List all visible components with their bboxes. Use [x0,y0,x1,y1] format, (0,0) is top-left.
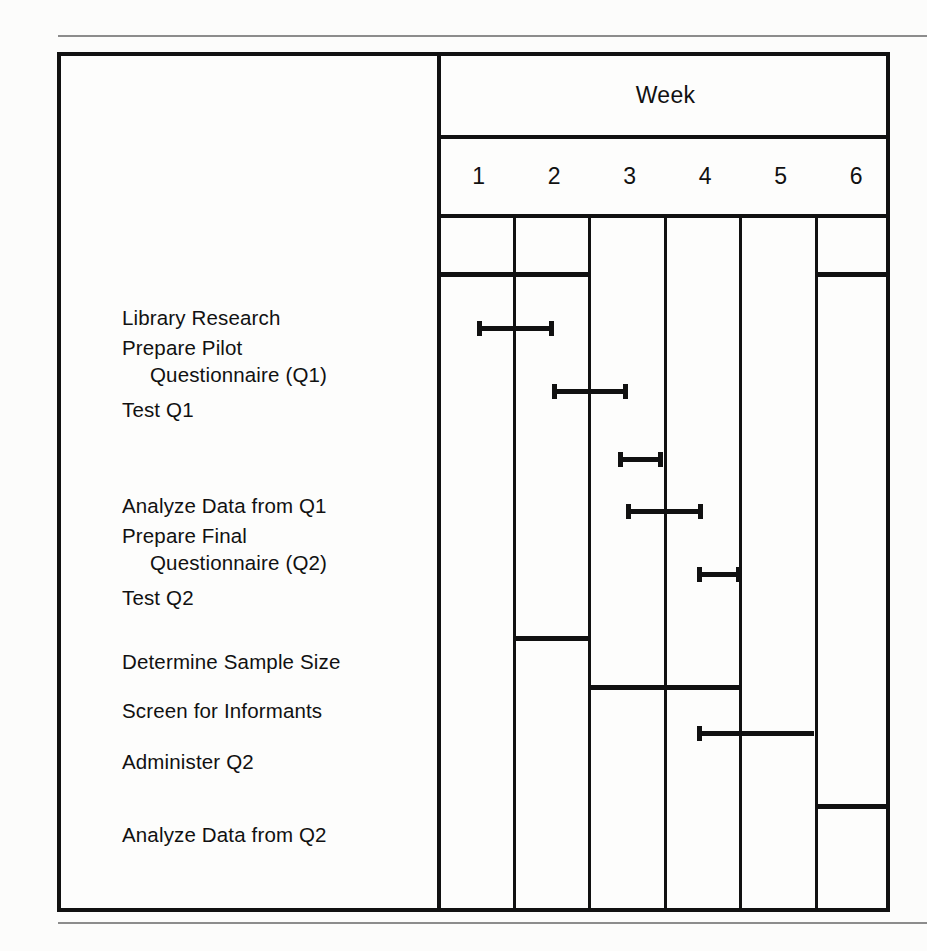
task-label: Prepare FinalQuestionnaire (Q2) [122,522,327,576]
week-number-cell-1: 1 [441,139,517,214]
task-label-line1: Prepare Final [122,524,247,547]
task-label: Library Research [122,304,281,331]
task-label-line1: Analyze Data from Q1 [122,494,327,517]
week-header-title: Week [441,56,890,135]
bar-cap-right [736,567,741,582]
gantt-bar [697,572,740,577]
week-number-row: 123456 [441,139,890,214]
bottom-horizontal-rule [58,922,927,924]
bar-cap-left [697,567,702,582]
week-gridline-3 [664,214,667,912]
week-number-cell-6: 6 [819,139,895,214]
task-label: Determine Sample Size [122,648,341,675]
task-label: Screen for Informants [122,697,322,724]
task-label-line2: Questionnaire (Q2) [122,549,327,576]
task-label-line1: Test Q1 [122,398,194,421]
bar-cap-left [618,452,623,467]
gantt-bar [626,509,703,514]
week-gridline-4 [739,214,742,912]
task-label: Analyze Data from Q2 [122,821,327,848]
gantt-chart-frame: Week 123456 Library ResearchPrepare Pilo… [57,52,890,912]
task-label-line1: Screen for Informants [122,699,322,722]
week-gridline-2 [588,214,591,912]
gantt-bar [697,731,814,736]
top-horizontal-rule [58,35,927,37]
week-number-cell-5: 5 [743,139,819,214]
gantt-bar [552,389,628,394]
task-label-line1: Administer Q2 [122,750,254,773]
task-label-column: Library ResearchPrepare PilotQuestionnai… [122,56,432,908]
task-label: Prepare PilotQuestionnaire (Q1) [122,334,327,388]
task-label-line1: Analyze Data from Q2 [122,823,327,846]
gantt-bar [437,272,588,277]
week-number-cell-3: 3 [592,139,668,214]
bar-cap-right [549,321,554,336]
gantt-bar [815,272,891,277]
task-label: Test Q1 [122,396,194,423]
bar-cap-right [698,504,703,519]
task-label-line1: Prepare Pilot [122,336,242,359]
task-label: Analyze Data from Q1 [122,492,327,519]
gantt-bar [477,326,554,331]
week-gridline-1 [513,214,516,912]
task-label-line2: Questionnaire (Q1) [122,361,327,388]
week-number-cell-2: 2 [517,139,593,214]
bar-cap-right [658,452,663,467]
gantt-bar [513,636,589,641]
bar-cap-left [477,321,482,336]
task-label-line1: Determine Sample Size [122,650,341,673]
gantt-bar [618,457,663,462]
bar-cap-left [626,504,631,519]
bar-cap-left [552,384,557,399]
task-label: Test Q2 [122,584,194,611]
task-label-line1: Test Q2 [122,586,194,609]
gantt-bar [588,685,739,690]
week-number-cell-4: 4 [668,139,744,214]
task-label: Administer Q2 [122,748,254,775]
task-label-line1: Library Research [122,306,281,329]
bar-cap-left [697,726,702,741]
bar-cap-right [623,384,628,399]
gantt-bar [815,804,891,809]
